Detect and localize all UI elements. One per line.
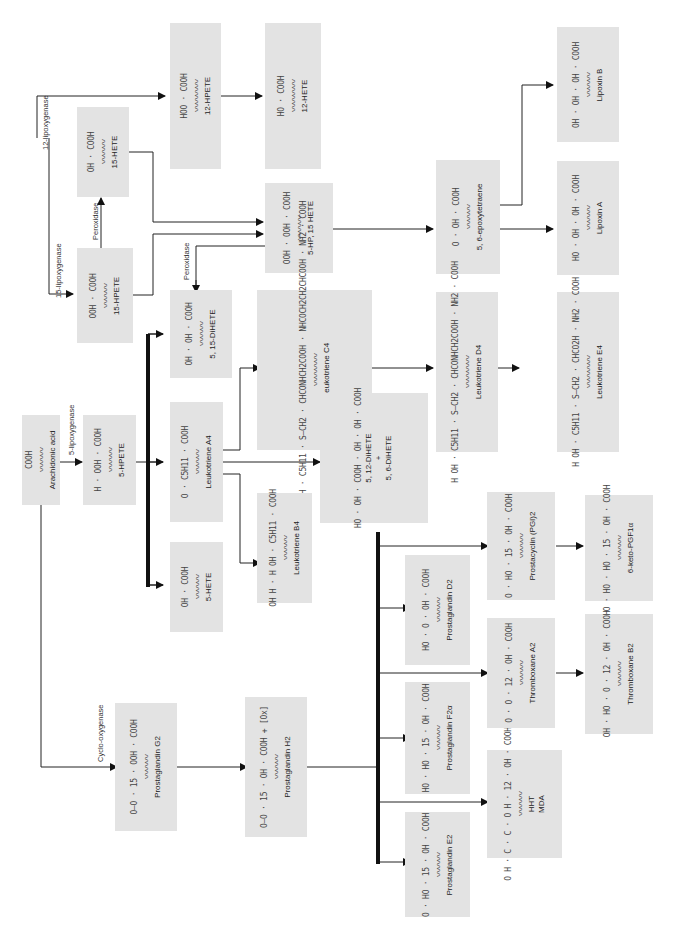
compound-leukotriene-e4: H OH · C5H11 · S—CH2 · CHCO2H · NH2 · CO…: [557, 292, 619, 452]
compound-thromboxane-a2: O · O · 12 · OH · COOH〰〰〰Thromboxane A2: [487, 618, 555, 728]
compound-15-hete: OH · COOH〰〰〰15-HETE: [77, 107, 129, 197]
compound-prostaglandin-g2: O—O · 15 · OOH · COOH〰〰〰Prostaglandin G2: [115, 703, 177, 831]
compound-leukotriene-b4: OH H · H OH · C5H11 · COOH〰〰〰Leukotriene…: [257, 493, 312, 603]
compound-lipoxin-a: HO · OH · OH · COOH〰〰〰Lipoxin A: [557, 161, 619, 275]
compound-prostaglandin-e2: O · HO · 15 · OH · COOH〰〰〰Prostaglandin …: [405, 812, 470, 917]
enzyme-label-5-lipoxygenase: 5-lipoxygenase: [67, 405, 76, 455]
enzyme-label-peroxidase-dihete: Peroxidase: [182, 242, 191, 280]
compound-lipoxin-b: OH · OH · OH · COOH〰〰〰Lipoxin B: [557, 27, 619, 142]
compound-12-hete: HO · COOH〰〰〰〰12-HETE: [265, 23, 321, 169]
compound-prostaglandin-d2: HO · O · OH · COOH〰〰〰Prostaglandin D2: [405, 555, 470, 665]
enzyme-label-15-lipoxygenase: 15-lipoxygenase: [54, 243, 63, 298]
compound-hht-mda: O H · C · C · O H · 12 · OH · COOH〰〰〰HHT…: [487, 750, 562, 858]
arachidonic-acid-pathway-diagram: 12-lipoxygenase 15-lipoxygenase 5-lipoxy…: [0, 0, 679, 932]
compound-leukotriene-d4: H OH · C5H11 · S—CH2 · CHCONHCH2COOH · N…: [436, 292, 498, 452]
compound-thromboxane-b2: OH · HO · O · 12 · OH · COOH〰〰〰Thromboxa…: [585, 614, 653, 734]
enzyme-label-peroxidase-15hete: Peroxidase: [91, 202, 100, 240]
enzyme-label-cyclo-oxygenase: Cyclo-oxygenase: [96, 704, 105, 762]
compound-5-15-dihete: OH · OH · COOH〰〰〰5, 15-DiHETE: [170, 290, 232, 378]
compound-5-12-dihete-and-5-6-dihete: HO · OH · COOH · OH · OH · COOH5, 12-DiH…: [320, 393, 428, 523]
compound-prostaglandin-h2: O—O · 15 · OH · COOH + [Ox]〰〰〰Prostaglan…: [245, 697, 307, 837]
compound-6-keto-pgf1a: O · HO · HO · 15 · OH · COOH〰〰〰6-keto-PG…: [585, 495, 653, 601]
compound-arachidonic-acid: COOH〰〰〰Arachidonic acid: [22, 415, 60, 505]
compound-15-hpete: OOH · COOH〰〰〰15-HPETE: [77, 248, 133, 343]
compound-12-hpete: HOO · COOH〰〰〰〰12-HPETE: [170, 23, 221, 169]
compound-prostacyclin-pgi2: O · HO · 15 · OH · COOH〰〰〰Prostacyclin (…: [487, 492, 555, 600]
enzyme-label-12-lipoxygenase: 12-lipoxygenase: [41, 95, 50, 150]
compound-5-6-epoxytetraene: O · OH · COOH〰〰〰5, 6-epoxytetraene: [436, 160, 500, 274]
compound-leukotriene-a4: O · C5H11 · COOH〰〰〰Leukotriene A4: [170, 402, 223, 522]
compound-prostaglandin-f2a: HO · HO · 15 · OH · COOH〰〰〰Prostaglandin…: [405, 682, 470, 794]
compound-5-hete: OH · COOH〰〰〰5-HETE: [170, 542, 223, 632]
compound-5-hpete: H · OOH · COOH〰〰〰5-HPETE: [83, 415, 136, 505]
